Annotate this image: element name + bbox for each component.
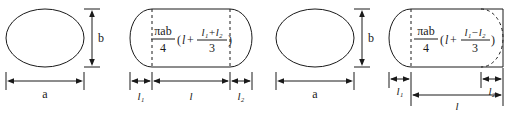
ellipse-outline [6,9,84,67]
l2-arrow-left [482,76,489,82]
figure-capsule-one-cap: πab 4 ( l + l₁−l₂ 3 ) l₁ l₂ l [383,0,521,114]
formula-main-term: l [445,33,449,47]
formula-inner-denominator: 3 [472,41,478,55]
a-arrow-right [346,78,353,84]
l-arrow-left [412,92,419,98]
a-arrow-left [277,78,284,84]
label-l: l [455,100,458,112]
l2-arrow-left [231,78,238,84]
formula-numerator: πab [154,24,171,38]
a-arrow-left [7,78,14,84]
formula-open-paren: ( [440,33,444,47]
l1-arrow-right [403,76,410,82]
label-b: b [368,31,374,45]
l-arrow-right [495,92,502,98]
label-l2: l₂ [238,90,245,102]
formula-inner-numerator: l₁+l₂ [201,26,222,38]
formula-plus-sign: + [187,33,194,47]
b-arrow-down [359,59,365,66]
formula-close-paren: ) [491,33,495,47]
figure-capsule-two-caps: πab 4 ( l + l₁+l₂ 3 ) l₁ l l₂ [115,0,267,114]
l1-arrow-right [144,78,151,84]
b-arrow-up [359,10,365,17]
formula-inner-denominator: 3 [209,41,215,55]
figure-ellipse-1: b a [0,0,112,114]
formula-denominator: 4 [423,41,429,55]
figure-ellipse-2: b a [270,0,382,114]
label-l2: l₂ [489,85,496,97]
formula-close-paren: ) [228,33,232,47]
l2-arrow-right [244,78,251,84]
a-arrow-right [76,78,83,84]
formula-inner-numerator: l₁−l₂ [464,26,485,38]
b-arrow-down [89,59,95,66]
formula-open-paren: ( [177,33,181,47]
l-arrow-left [153,78,160,84]
label-b: b [98,31,104,45]
b-arrow-up [89,10,95,17]
label-a: a [312,87,318,101]
label-l1: l₁ [138,90,145,102]
l1-arrow-left [131,78,138,84]
formula-main-term: l [182,33,186,47]
formula-denominator: 4 [160,41,166,55]
l1-arrow-left [390,76,397,82]
formula-plus-sign: + [450,33,457,47]
label-l1: l₁ [397,85,404,97]
l2-arrow-right [495,76,502,82]
formula-numerator: πab [417,24,434,38]
l-arrow-right [222,78,229,84]
ellipse-outline [276,9,354,67]
label-l: l [189,90,192,102]
label-a: a [42,87,48,101]
diagram-canvas: b a [0,0,521,114]
